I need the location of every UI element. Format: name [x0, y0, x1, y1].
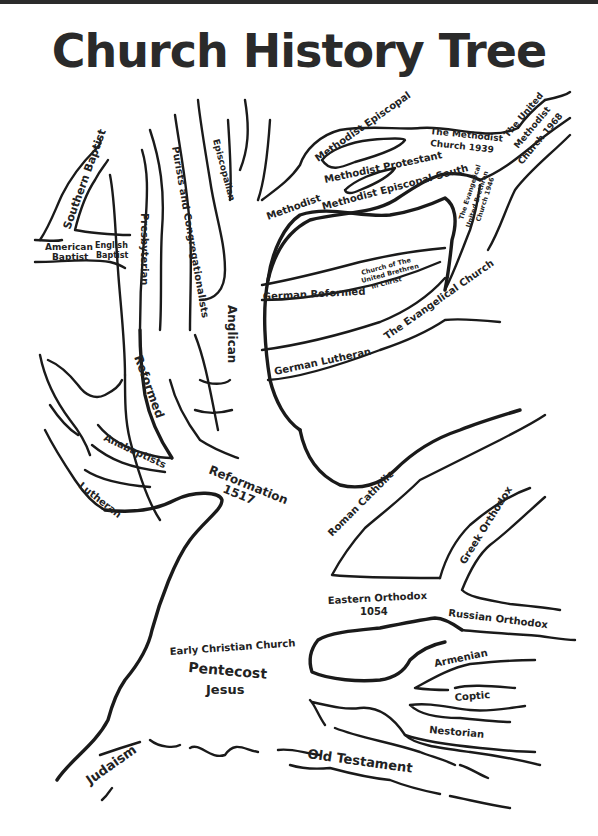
- label-russian-orthodox: Russian Orthodox: [448, 607, 549, 630]
- coptic-branch: [410, 704, 525, 722]
- label-german-reformed: German Reformed: [263, 286, 366, 302]
- label-german-lutheran: German Lutheran: [273, 346, 372, 377]
- label-jesus: Jesus: [205, 682, 245, 697]
- armenian-branch: [415, 660, 535, 690]
- label-old-testament: Old Testament: [307, 746, 414, 776]
- eastern-orthodox-body: [310, 618, 462, 681]
- church-history-tree-diagram: Southern Baptist American Baptist Englis…: [0, 0, 598, 836]
- label-pentecost: Pentecost: [188, 659, 268, 682]
- label-american-baptist-1: American: [45, 242, 93, 252]
- label-judaism: Judaism: [82, 742, 139, 788]
- label-episcopalian: Episcopalian: [211, 138, 237, 202]
- trunk-left-edge: [57, 493, 222, 780]
- label-coptic: Coptic: [454, 689, 490, 703]
- label-greek-orthodox: Greek Orthodox: [457, 484, 514, 566]
- label-eastern-orthodox: Eastern Orthodox: [328, 590, 428, 606]
- label-roman-catholic: Roman Catholic: [326, 468, 396, 538]
- label-nestorian: Nestorian: [429, 724, 485, 740]
- label-anglican: Anglican: [225, 305, 239, 363]
- label-methodist-episcopal: Methodist Episcopal: [313, 89, 413, 163]
- label-presbyterian: Presbyterian: [139, 213, 150, 285]
- label-lutheran: Lutheran: [77, 480, 124, 520]
- russian-orthodox-branch: [462, 630, 575, 640]
- label-english-baptist-2: Baptist: [96, 251, 129, 260]
- label-early-christian-church: Early Christian Church: [169, 637, 295, 657]
- label-eastern-orthodox-year: 1054: [360, 606, 388, 617]
- label-southern-baptist: Southern Baptist: [61, 127, 109, 231]
- roman-catholic-upper-edge: [300, 410, 520, 487]
- label-english-baptist-1: English: [95, 241, 128, 250]
- label-american-baptist-2: Baptist: [52, 252, 89, 262]
